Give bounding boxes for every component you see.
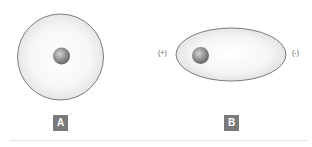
panel-b [176, 28, 286, 81]
polarization-diagram: (+) (-) A B [0, 0, 312, 147]
nucleus-b [192, 47, 209, 64]
bottom-divider [10, 140, 308, 141]
nucleus-a [53, 48, 70, 65]
panel-a [18, 14, 104, 100]
diagram-canvas [0, 0, 312, 147]
negative-charge-label: (-) [292, 48, 299, 58]
panel-label-b: B [224, 115, 239, 131]
positive-charge-label: (+) [158, 48, 167, 58]
panel-label-a: A [53, 115, 68, 131]
